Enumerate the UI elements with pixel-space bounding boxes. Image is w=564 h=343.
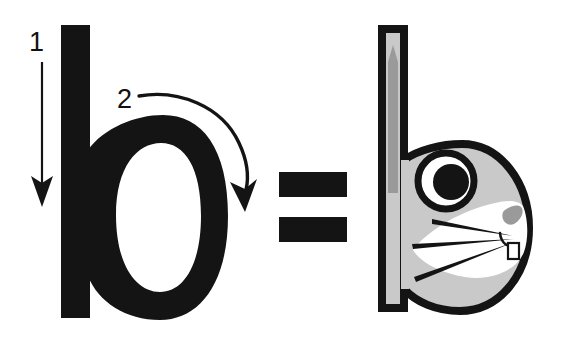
equals-sign: [279, 172, 347, 242]
stroke-2-arrow-head: [230, 179, 257, 212]
equals-bar-top: [279, 172, 347, 197]
stroke-1-arrow-group: [31, 62, 53, 207]
stroke-1-number: 1: [29, 27, 44, 57]
rabbit-tooth: [508, 243, 519, 259]
letter-b-stem: [61, 25, 90, 318]
letter-b-bowl: [88, 115, 228, 320]
rabbit-inner-ear: [388, 45, 398, 193]
rabbit-pupil: [433, 164, 469, 200]
stroke-2-number: 2: [117, 84, 132, 114]
left-letter-b-group: [61, 25, 228, 320]
rabbit-letter-b-group: [382, 29, 529, 311]
mnemonic-illustration: 1 2: [0, 0, 564, 343]
equals-bar-bottom: [279, 217, 347, 242]
illustration-canvas: 1 2: [0, 0, 564, 343]
rabbit-stem-foot: [401, 160, 409, 289]
